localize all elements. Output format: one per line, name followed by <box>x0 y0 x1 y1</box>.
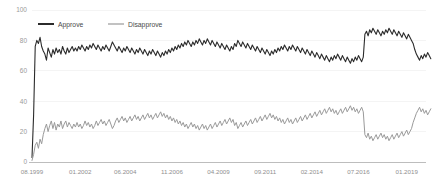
legend-label-approve: Approve <box>58 21 84 29</box>
x-tick-label-4: 04.2009 <box>207 168 230 175</box>
y-tick-label-60: 60 <box>20 67 28 74</box>
x-tick-label-7: 07.2016 <box>347 168 370 175</box>
legend-label-disapprove: Disapprove <box>128 21 163 29</box>
x-tick-label-8: 01.2019 <box>396 168 419 175</box>
x-axis-tick-labels: 08.199901.200206.200411.200604.200909.20… <box>21 168 419 175</box>
y-tick-label-80: 80 <box>20 37 28 44</box>
x-tick-label-3: 11.2006 <box>161 168 183 175</box>
y-tick-label-40: 40 <box>20 98 28 105</box>
x-tick-label-0: 08.1999 <box>21 168 44 175</box>
series-group <box>32 28 431 160</box>
y-tick-label-20: 20 <box>20 128 28 135</box>
y-axis-tick-labels: 020406080100 <box>16 6 27 165</box>
x-tick-label-1: 01.2002 <box>69 168 92 175</box>
chart-canvas: 020406080100 08.199901.200206.200411.200… <box>0 0 433 187</box>
x-tick-label-5: 09.2011 <box>254 168 276 175</box>
chart-legend: ApproveDisapprove <box>38 21 163 29</box>
y-tick-label-100: 100 <box>16 6 27 13</box>
gridlines-group <box>32 10 426 132</box>
x-tick-label-2: 06.2004 <box>114 168 137 175</box>
x-tick-label-6: 02.2014 <box>301 168 324 175</box>
approval-rating-line-chart: 020406080100 08.199901.200206.200411.200… <box>0 0 433 187</box>
y-tick-label-0: 0 <box>23 158 27 165</box>
series-line-approve <box>32 28 431 157</box>
series-line-disapprove <box>32 106 431 161</box>
